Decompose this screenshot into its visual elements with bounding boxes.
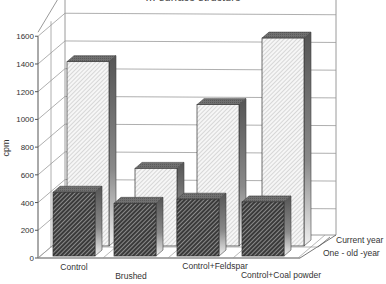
y-axis-label: cpm [1, 139, 11, 156]
y-tick-label: 200 [21, 226, 35, 235]
y-tick-label: 1400 [16, 60, 34, 69]
x-tick-label: Control+Coal powder [241, 270, 321, 280]
depth-legend: Current yearOne - old -year [318, 235, 383, 258]
y-tick-label: 600 [21, 171, 35, 180]
bar-one-old-year-3 [242, 196, 291, 256]
x-axis-labels: ControlBrushedControl+FeldsparControl+Co… [60, 261, 321, 281]
x-tick-label: Brushed [115, 271, 147, 281]
bar-one-old-year-1 [114, 197, 163, 256]
y-tick-label: 400 [21, 199, 35, 208]
y-tick-label: 0 [30, 254, 35, 263]
y-tick-label: 1200 [16, 88, 34, 97]
y-tick-label: 800 [21, 143, 35, 152]
bar-one-old-year-2 [177, 193, 226, 256]
legend-current-year: Current year [336, 235, 383, 245]
y-tick-label: 1000 [16, 115, 34, 124]
y-axis: 02004006008001000120014001600cpm [1, 32, 38, 263]
x-tick-label: Control+Feldspar [182, 261, 248, 271]
bar-chart-3d: 02004006008001000120014001600cpm Control… [0, 0, 386, 284]
y-tick-label: 1600 [16, 32, 34, 41]
bar-one-old-year-0 [53, 186, 102, 256]
x-tick-label: Control [60, 262, 88, 272]
legend-one-old-year: One - old -year [323, 248, 380, 258]
